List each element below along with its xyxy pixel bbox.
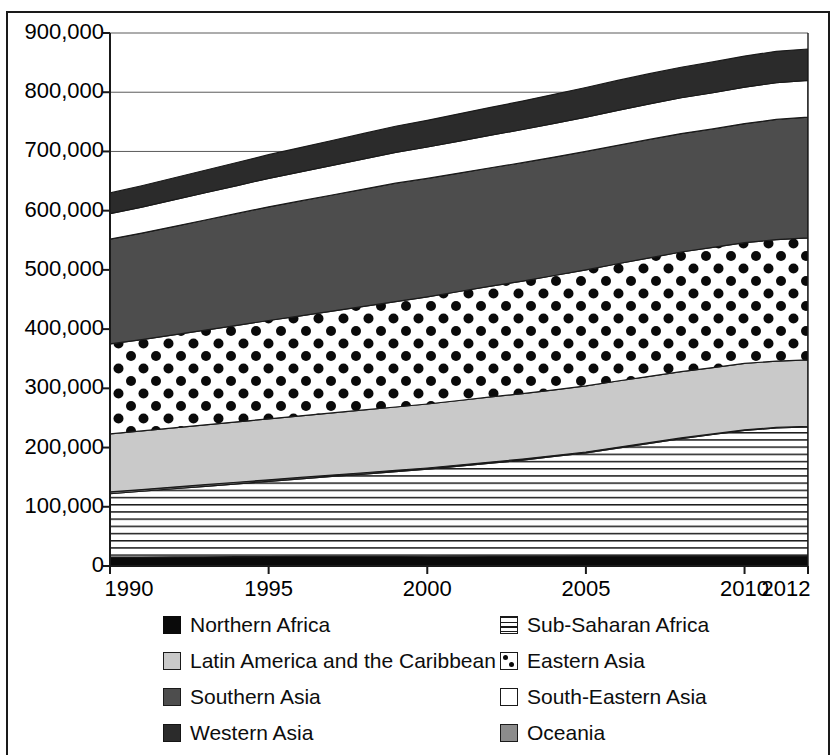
x-tick-label: 2012	[762, 578, 811, 600]
legend-swatch-sub-saharan-africa	[500, 616, 518, 634]
legend-swatch-oceania	[500, 724, 518, 742]
x-tick-label: 1990	[105, 578, 154, 600]
x-tick-label: 1995	[244, 578, 293, 600]
legend-item-label: Latin America and the Caribbean	[190, 650, 496, 671]
legend-item-label: Western Asia	[190, 722, 313, 743]
legend-item-label: Southern Asia	[190, 686, 321, 707]
legend-swatch-south-eastern-asia	[500, 688, 518, 706]
legend-item[interactable]: Western Asia	[163, 716, 496, 749]
x-tick-label: 2000	[403, 578, 452, 600]
figure-root: 0100,000200,000300,000400,000500,000600,…	[0, 0, 835, 756]
legend-swatch-western-asia	[163, 724, 181, 742]
legend-item-label: Eastern Asia	[527, 650, 645, 671]
legend-item[interactable]: Northern Africa	[163, 608, 496, 641]
legend-column-left: Northern AfricaLatin America and the Car…	[163, 608, 496, 752]
chart-legend: Northern AfricaLatin America and the Car…	[0, 608, 835, 756]
legend-item-label: Northern Africa	[190, 614, 330, 635]
legend-column-right: Sub-Saharan AfricaEastern AsiaSouth-East…	[500, 608, 709, 752]
legend-item[interactable]: Eastern Asia	[500, 644, 709, 677]
legend-item[interactable]: South-Eastern Asia	[500, 680, 709, 713]
legend-item-label: Sub-Saharan Africa	[527, 614, 709, 635]
legend-item-label: South-Eastern Asia	[527, 686, 707, 707]
legend-item[interactable]: Latin America and the Caribbean	[163, 644, 496, 677]
chart-plot-area: 0100,000200,000300,000400,000500,000600,…	[0, 0, 835, 600]
legend-item-label: Oceania	[527, 722, 605, 743]
legend-swatch-eastern-asia	[500, 652, 518, 670]
legend-item[interactable]: Southern Asia	[163, 680, 496, 713]
x-axis-tick-labels: 199019952000200520102012	[0, 0, 835, 600]
legend-item[interactable]: Oceania	[500, 716, 709, 749]
legend-swatch-southern-asia	[163, 688, 181, 706]
legend-item[interactable]: Sub-Saharan Africa	[500, 608, 709, 641]
x-tick-label: 2005	[561, 578, 610, 600]
legend-swatch-northern-africa	[163, 616, 181, 634]
legend-swatch-latin-america	[163, 652, 181, 670]
